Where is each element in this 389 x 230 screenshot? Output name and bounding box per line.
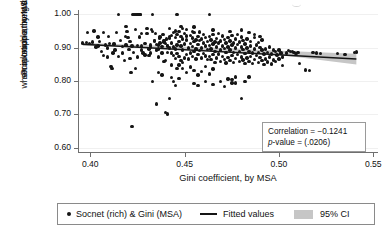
scatter-point [230, 78, 233, 81]
scatter-point [110, 67, 113, 70]
scatter-point [224, 61, 227, 64]
chart-figure: Proportion among the rich whose social s… [0, 0, 389, 230]
y-tick-label: 0.60 [31, 142, 71, 152]
scatter-point [196, 53, 199, 56]
scatter-point [111, 51, 114, 54]
scatter-point [177, 55, 180, 58]
scatter-point [123, 59, 126, 62]
scatter-point [232, 41, 235, 44]
scatter-point [253, 58, 256, 61]
statistics-annotation-box: Correlation = −0.1241 p-value = (.0206) [262, 122, 366, 152]
scatter-point [183, 56, 186, 59]
scatter-point [277, 57, 280, 60]
y-axis-title-line-3: when in trouble, by MSA (%) [19, 0, 30, 110]
scatter-point [140, 44, 143, 47]
legend-item-ci: 95% CI [274, 209, 350, 219]
x-tick-mark [279, 153, 280, 157]
scatter-point [204, 80, 207, 83]
scatter-point [192, 50, 195, 53]
scatter-point [177, 77, 180, 80]
scatter-point [185, 34, 188, 37]
x-tick-mark [373, 153, 374, 157]
scatter-point [121, 51, 124, 54]
scatter-point [213, 40, 216, 43]
scatter-point [138, 35, 141, 38]
scatter-point [129, 71, 132, 74]
band-swatch-icon [294, 210, 313, 219]
scatter-point [162, 39, 165, 42]
scatter-point [130, 44, 133, 47]
scatter-point [243, 62, 246, 65]
correlation-text: Correlation = −0.1241 [268, 126, 361, 137]
chart-legend: Socnet (rich) & Gini (MSA) Fitted values… [57, 203, 375, 225]
scatter-point [185, 38, 188, 41]
legend-scatter-label: Socnet (rich) & Gini (MSA) [76, 209, 182, 219]
scatter-point [174, 47, 177, 50]
scatter-point [158, 41, 161, 44]
scatter-point [153, 39, 156, 42]
scatter-point [196, 73, 199, 76]
scatter-point [196, 84, 199, 87]
scatter-point [136, 55, 139, 58]
y-tick-label: 0.70 [31, 108, 71, 118]
scatter-point [194, 57, 197, 60]
scatter-point [96, 35, 99, 38]
scatter-point [112, 42, 115, 45]
scatter-point [94, 45, 97, 48]
scatter-point [260, 38, 263, 41]
scatter-point [266, 60, 269, 63]
scatter-point [217, 52, 220, 55]
line-marker-icon [200, 213, 217, 215]
legend-fitted-label: Fitted values [223, 209, 274, 219]
legend-item-fitted: Fitted values [182, 209, 274, 219]
scatter-point [127, 48, 130, 51]
scatter-point [319, 52, 322, 55]
scatter-point [200, 56, 203, 59]
x-tick-label: 0.50 [259, 159, 299, 169]
scatter-point [143, 53, 146, 56]
scatter-point [304, 68, 307, 71]
scatter-point [128, 40, 131, 43]
scatter-point [208, 72, 211, 75]
scatter-point [187, 57, 190, 60]
cropped-title-artifact [292, 1, 301, 7]
scatter-point [219, 39, 222, 42]
scatter-point [102, 54, 105, 57]
scatter-point [249, 44, 252, 47]
scatter-point [247, 60, 250, 63]
scatter-point [279, 51, 282, 54]
scatter-point [211, 53, 214, 56]
scatter-point [166, 112, 169, 115]
scatter-point [247, 50, 250, 53]
x-tick-label: 0.45 [165, 159, 205, 169]
y-tick-label: 0.90 [31, 42, 71, 52]
scatter-point [106, 55, 109, 58]
scatter-point [160, 45, 163, 48]
scatter-point [211, 28, 214, 31]
scatter-point [157, 55, 160, 58]
scatter-point [170, 63, 173, 66]
scatter-point [213, 61, 216, 64]
scatter-point [125, 30, 128, 33]
pvalue-rest: -value = (.0206) [273, 138, 331, 147]
scatter-point [196, 43, 199, 46]
pvalue-text: p-value = (.0206) [268, 137, 361, 148]
scatter-point [234, 81, 237, 84]
legend-ci-label: 95% CI [320, 209, 350, 219]
scatter-point [268, 55, 271, 58]
x-axis-title: Gini coefficient, by MSA [78, 173, 378, 183]
scatter-point [143, 42, 146, 45]
scatter-point [140, 48, 143, 51]
scatter-point [174, 29, 177, 32]
scatter-point [130, 125, 133, 128]
scatter-point [262, 63, 265, 66]
scatter-point [160, 73, 163, 76]
scatter-point [145, 32, 148, 35]
legend-item-scatter: Socnet (rich) & Gini (MSA) [58, 209, 182, 219]
scatter-point [91, 40, 94, 43]
circle-marker-icon [67, 212, 71, 216]
scatter-point [268, 45, 271, 48]
scatter-point [192, 25, 195, 28]
scatter-point [223, 85, 226, 88]
scatter-point [124, 43, 127, 46]
